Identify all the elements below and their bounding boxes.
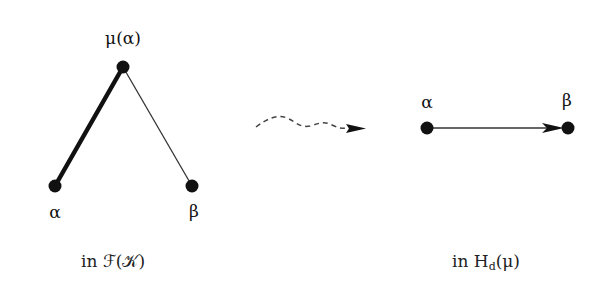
caption-right: in Hd(μ) [452,253,520,272]
label-alpha-right: α [421,94,432,111]
thick-edge-alpha-mu [55,67,123,186]
label-alpha-left: α [49,204,60,221]
label-beta-left: β [189,203,199,220]
label-mu-alpha: μ(α) [105,30,141,47]
node-beta-left [186,180,199,193]
caption-right-subscript: d [489,260,496,273]
thin-edge-mu-beta [123,67,192,186]
arrowhead-icon [346,124,366,133]
node-mu-alpha [117,61,130,74]
caption-right-prefix: in H [452,251,489,271]
label-beta-right: β [562,92,572,109]
node-beta-right [562,122,575,135]
node-alpha-right [421,122,434,135]
node-alpha-left [49,180,62,193]
squiggly-dashed-arrow [256,116,350,128]
caption-right-suffix: (μ) [496,251,520,271]
caption-left: in ℱ(𝒦) [81,253,145,270]
